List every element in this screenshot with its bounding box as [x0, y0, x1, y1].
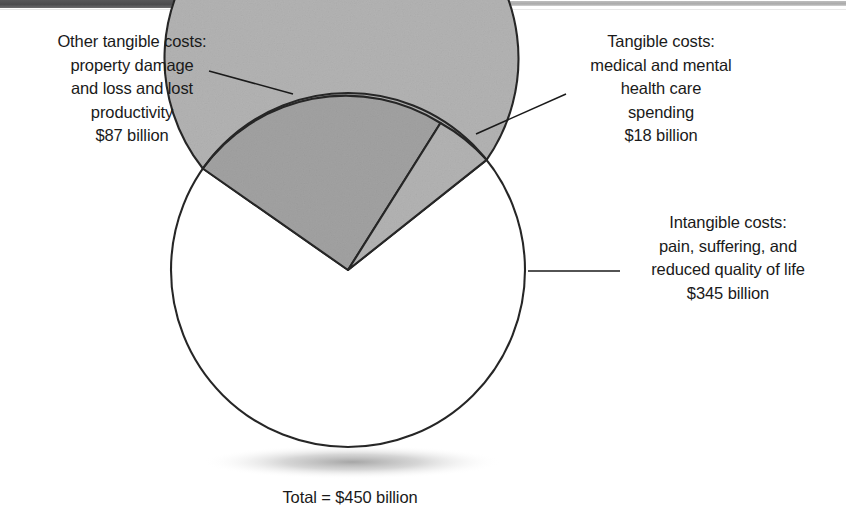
callout-line: medical and mental [548, 54, 774, 78]
callout-line: reduced quality of life [610, 258, 846, 282]
callout-line: pain, suffering, and [610, 235, 846, 259]
callout-label-intangible-costs: Intangible costs: pain, suffering, and r… [610, 211, 846, 305]
callout-line: property damage [18, 54, 246, 78]
callout-value: $345 billion [610, 282, 846, 306]
callout-line: spending [548, 101, 774, 125]
callout-line: Intangible costs: [610, 211, 846, 235]
callout-line: and loss and lost [18, 77, 246, 101]
callout-value: $18 billion [548, 124, 774, 148]
pie-drop-shadow [202, 445, 502, 479]
callout-label-tangible-costs: Tangible costs: medical and mental healt… [548, 30, 774, 148]
pie-chart-figure: Other tangible costs: property damage an… [0, 0, 846, 520]
callout-line: health care [548, 77, 774, 101]
callout-label-other-tangible-costs: Other tangible costs: property damage an… [18, 30, 246, 148]
callout-line: productivity [18, 101, 246, 125]
callout-value: $87 billion [18, 124, 246, 148]
callout-line: Other tangible costs: [18, 30, 246, 54]
callout-line: Tangible costs: [548, 30, 774, 54]
chart-total-label: Total = $450 billion [0, 486, 700, 508]
